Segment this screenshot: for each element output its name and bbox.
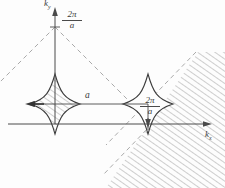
right-hatched-region [100,40,225,188]
top-fraction-label: 2π a [62,10,82,31]
diagram-canvas [0,0,225,188]
distance-label: a [85,91,90,101]
ky-axis-label: ky [44,0,51,10]
kx-axis-label: kx [205,130,212,141]
right-fraction-label: 2π a [140,96,160,117]
fermi-surface-figure: ky kx 2π a 2π a a [0,0,225,188]
